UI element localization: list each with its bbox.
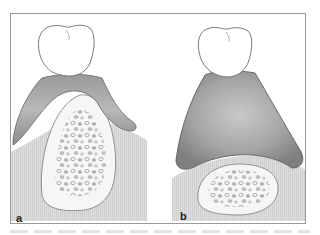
panel-a-label: a [16, 212, 22, 224]
panel-b-gingiva [176, 71, 303, 169]
panel-b-tooth [198, 27, 251, 77]
cropped-caption [10, 230, 310, 233]
panel-a [11, 25, 147, 221]
dental-diagram [0, 0, 320, 235]
panel-a-tooth [39, 25, 95, 76]
panel-b [172, 27, 305, 221]
panel-b-label: b [180, 210, 187, 222]
